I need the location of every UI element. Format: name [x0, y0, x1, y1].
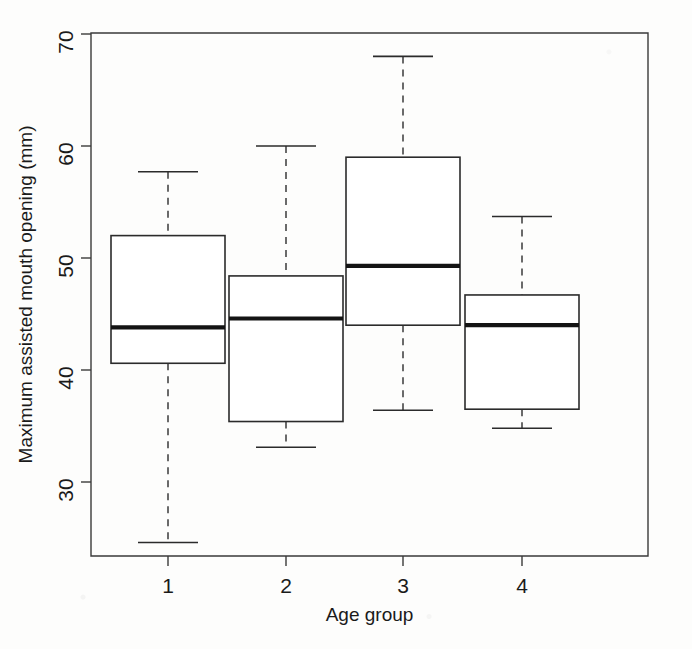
boxplot-figure: 3040506070Maximum assisted mouth opening… — [0, 0, 692, 649]
y-axis-tick-label: 40 — [54, 366, 77, 389]
x-axis-tick-label: 2 — [280, 574, 292, 597]
box-4[interactable] — [465, 295, 579, 409]
boxplot-canvas: 3040506070Maximum assisted mouth opening… — [0, 0, 692, 649]
x-axis-title: Age group — [326, 604, 414, 625]
y-axis-tick-label: 60 — [54, 142, 77, 165]
y-axis-tick-label: 50 — [54, 254, 77, 277]
y-axis-title: Maximum assisted mouth opening (mm) — [15, 126, 36, 464]
box-3[interactable] — [346, 157, 460, 325]
y-axis-tick-label: 30 — [54, 478, 77, 501]
x-axis-tick-label: 1 — [162, 574, 174, 597]
y-axis-tick-label: 70 — [54, 30, 77, 53]
box-2[interactable] — [229, 276, 343, 422]
box-1[interactable] — [111, 236, 225, 364]
x-axis-tick-label: 4 — [516, 574, 528, 597]
x-axis-tick-label: 3 — [397, 574, 409, 597]
